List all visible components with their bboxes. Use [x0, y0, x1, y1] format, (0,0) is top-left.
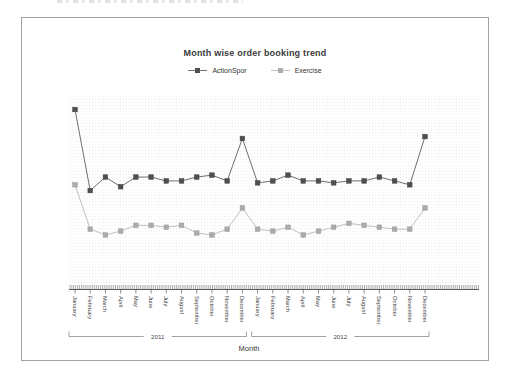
x-tick-label: July — [346, 296, 352, 306]
marker-actionspor — [134, 175, 139, 180]
x-tick-label: April — [300, 296, 306, 308]
x-tick-label: April — [118, 296, 124, 308]
marker-actionspor — [88, 188, 93, 193]
year-label-2012: 2012 — [333, 333, 347, 340]
year-label-2011: 2011 — [151, 333, 165, 340]
x-tick-label: September — [376, 296, 382, 324]
marker-actionspor — [240, 136, 245, 141]
line-chart-plot: JanuaryFebruaryMarchAprilMayJuneJulyAugu… — [22, 18, 488, 360]
x-tick-label: August — [361, 296, 367, 314]
x-tick-label: December — [239, 296, 245, 323]
marker-actionspor — [225, 179, 230, 184]
marker-actionspor — [194, 175, 199, 180]
x-tick-label: August — [179, 296, 185, 314]
x-axis-title: Month — [239, 344, 260, 353]
marker-exercise — [286, 225, 291, 230]
marker-exercise — [194, 231, 199, 236]
marker-exercise — [179, 223, 184, 228]
marker-exercise — [407, 227, 412, 232]
x-tick-label: November — [407, 296, 413, 323]
marker-exercise — [225, 227, 230, 232]
marker-actionspor — [423, 134, 428, 139]
x-tick-label: December — [422, 296, 428, 323]
marker-actionspor — [271, 179, 276, 184]
marker-exercise — [134, 223, 139, 228]
marker-actionspor — [255, 181, 260, 186]
x-tick-label: June — [148, 296, 154, 309]
marker-exercise — [423, 206, 428, 211]
marker-actionspor — [179, 179, 184, 184]
marker-exercise — [73, 182, 78, 187]
x-tick-label: October — [209, 296, 215, 317]
x-tick-label: November — [224, 296, 230, 323]
marker-actionspor — [392, 179, 397, 184]
x-tick-label: May — [133, 296, 139, 307]
x-tick-label: February — [87, 296, 93, 319]
x-tick-label: January — [72, 296, 78, 317]
marker-exercise — [362, 223, 367, 228]
x-tick-label: June — [331, 296, 337, 309]
x-tick-label: July — [163, 296, 169, 306]
marker-actionspor — [103, 175, 108, 180]
marker-actionspor — [301, 179, 306, 184]
x-tick-label: March — [102, 296, 108, 312]
marker-exercise — [377, 225, 382, 230]
marker-actionspor — [73, 107, 78, 112]
marker-actionspor — [210, 173, 215, 178]
marker-actionspor — [149, 175, 154, 180]
chart-frame: Month wise order booking trend ActionSpo… — [21, 17, 489, 361]
marker-actionspor — [362, 179, 367, 184]
marker-exercise — [88, 227, 93, 232]
marker-exercise — [271, 229, 276, 234]
marker-actionspor — [286, 173, 291, 178]
x-tick-label: January — [255, 296, 261, 317]
marker-actionspor — [316, 179, 321, 184]
marker-actionspor — [331, 181, 336, 186]
marker-exercise — [149, 223, 154, 228]
marker-actionspor — [164, 179, 169, 184]
x-tick-label: May — [315, 296, 321, 307]
marker-actionspor — [377, 175, 382, 180]
x-tick-label: February — [270, 296, 276, 319]
marker-exercise — [331, 225, 336, 230]
marker-exercise — [210, 233, 215, 238]
marker-actionspor — [407, 182, 412, 187]
marker-exercise — [103, 233, 108, 238]
marker-actionspor — [347, 179, 352, 184]
marker-exercise — [164, 225, 169, 230]
marker-exercise — [347, 221, 352, 226]
marker-exercise — [392, 227, 397, 232]
x-tick-label: March — [285, 296, 291, 312]
marker-exercise — [316, 229, 321, 234]
marker-exercise — [240, 206, 245, 211]
x-axis-minor-ticks — [69, 285, 479, 289]
marker-exercise — [118, 229, 123, 234]
marker-actionspor — [118, 184, 123, 189]
plot-gridlines — [69, 96, 479, 289]
x-tick-label: October — [392, 296, 398, 317]
clipped-text-artifact — [57, 0, 243, 3]
marker-exercise — [255, 227, 260, 232]
marker-exercise — [301, 233, 306, 238]
x-tick-label: September — [194, 296, 200, 324]
